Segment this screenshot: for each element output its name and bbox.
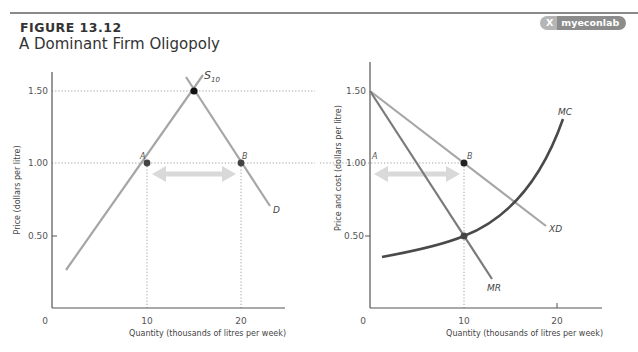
y-tick-100-right: 1.00 bbox=[346, 158, 366, 168]
excess-demand-arrow-left bbox=[152, 166, 236, 182]
y-tick-150: 1.50 bbox=[28, 86, 48, 96]
point-a-label-right: A bbox=[371, 152, 377, 161]
point-b-label-right: B bbox=[467, 152, 473, 161]
mr-mc-intersection bbox=[461, 233, 468, 240]
point-b-label: B bbox=[242, 152, 248, 161]
equilibrium-point bbox=[190, 87, 197, 94]
x-tick-10: 10 bbox=[141, 316, 153, 326]
right-x-axis-label: Quantity (thousands of litres per week) bbox=[446, 329, 603, 338]
mr-curve bbox=[370, 91, 492, 279]
left-x-axis-label: Quantity (thousands of litres per week) bbox=[129, 329, 286, 338]
x-tick-10-right: 10 bbox=[458, 316, 470, 326]
y-tick-050-right: 0.50 bbox=[344, 231, 364, 241]
x-tick-20-right: 20 bbox=[551, 316, 563, 326]
x-tick-20: 20 bbox=[235, 316, 247, 326]
y-tick-050: 0.50 bbox=[28, 231, 48, 241]
y-tick-100: 1.00 bbox=[28, 158, 48, 168]
right-chart: MC XD MR A B 1.50 1.00 0.50 0 10 20 Quan… bbox=[320, 62, 603, 338]
xd-label: XD bbox=[548, 224, 562, 234]
mc-label: MC bbox=[558, 107, 573, 117]
left-chart: S10 D A B 1.50 1.00 0.50 0 10 20 Quantit… bbox=[13, 69, 315, 338]
left-y-axis-label: Price (dollars per litre) bbox=[13, 145, 22, 234]
x-tick-0: 0 bbox=[42, 316, 48, 326]
x-tick-0-right: 0 bbox=[360, 316, 366, 326]
xd-curve bbox=[370, 91, 546, 226]
right-y-axis-label: Price and cost (dollars per litre) bbox=[334, 105, 343, 231]
charts-canvas: S10 D A B 1.50 1.00 0.50 0 10 20 Quantit… bbox=[0, 0, 638, 352]
mc-curve bbox=[382, 119, 563, 257]
demand-curve-d bbox=[186, 77, 270, 206]
y-tick-150-right: 1.50 bbox=[346, 86, 366, 96]
demand-label: D bbox=[273, 205, 280, 215]
mr-label: MR bbox=[487, 283, 501, 293]
excess-demand-arrow-right bbox=[374, 166, 460, 182]
supply-label: S10 bbox=[204, 69, 220, 84]
point-a-label: A bbox=[139, 152, 145, 161]
